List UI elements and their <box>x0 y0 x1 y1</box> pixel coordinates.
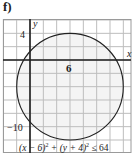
eq-part1: (x − 6) <box>19 143 45 154</box>
eq-part2: + (y + 4) <box>48 143 86 154</box>
tick-label-4: 4 <box>20 29 25 40</box>
y-axis-label: y <box>32 18 38 29</box>
tick-label-6: 6 <box>66 62 72 74</box>
eq-part3: ≤ 64 <box>89 143 109 153</box>
tick-label-neg10: −10 <box>7 122 23 133</box>
coordinate-plane: x y 6 4 −10 (x − 6)2 + (y + 4)2 ≤ 64 <box>0 0 135 163</box>
inequality-annotation: (x − 6)2 + (y + 4)2 ≤ 64 <box>19 142 109 154</box>
x-axis-label: x <box>126 48 132 59</box>
